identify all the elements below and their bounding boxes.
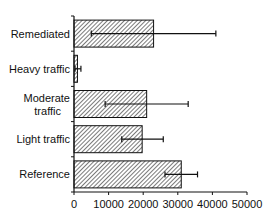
bar-group bbox=[74, 55, 81, 82]
bar-group bbox=[74, 20, 216, 47]
bar-group bbox=[74, 161, 198, 188]
horizontal-bar-chart: RemediatedHeavy trafficModeratetrafficLi… bbox=[0, 0, 272, 222]
plot-area bbox=[74, 20, 216, 188]
category-label: Light traffic bbox=[16, 133, 70, 145]
x-tick-label: 10000 bbox=[93, 198, 124, 210]
x-axis: 01000020000300004000050000 bbox=[71, 192, 262, 210]
y-axis: RemediatedHeavy trafficModeratetrafficLi… bbox=[9, 16, 74, 192]
bar-group bbox=[74, 126, 163, 153]
x-tick-label: 40000 bbox=[197, 198, 228, 210]
category-label: Moderatetraffic bbox=[24, 92, 70, 117]
x-tick-label: 30000 bbox=[163, 198, 194, 210]
bar-group bbox=[74, 91, 188, 118]
category-label: Heavy traffic bbox=[9, 63, 70, 75]
x-tick-label: 20000 bbox=[128, 198, 159, 210]
x-tick-label: 0 bbox=[71, 198, 77, 210]
x-tick-label: 50000 bbox=[232, 198, 263, 210]
category-label: Remediated bbox=[11, 28, 70, 40]
category-label: Reference bbox=[19, 168, 70, 180]
